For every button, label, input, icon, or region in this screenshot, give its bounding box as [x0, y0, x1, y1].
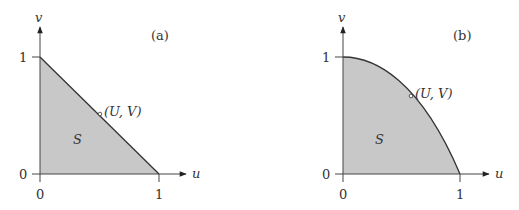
point-label-b: (U, V) [415, 86, 453, 101]
region-s-b [343, 57, 460, 174]
panel-tag-b: (b) [453, 28, 471, 43]
x-axis-label-a: u [192, 166, 200, 181]
point-label-a: (U, V) [104, 104, 142, 119]
diagram-canvas: v u 1 0 0 1 (a) (U, V) S v u 1 0 0 1 (b)… [0, 0, 519, 210]
y-tick-label-1-a: 1 [19, 50, 27, 65]
y-tick-label-0-a: 0 [19, 167, 27, 182]
y-tick-label-1-b: 1 [322, 50, 330, 65]
panel-tag-a: (a) [151, 28, 169, 43]
x-axis-label-b: u [495, 166, 503, 181]
point-uv-a [98, 112, 102, 116]
point-uv-b [409, 94, 413, 98]
region-label-a: S [73, 132, 82, 147]
region-label-b: S [375, 132, 384, 147]
panel-a: v u 1 0 0 1 (a) (U, V) S [19, 10, 200, 202]
x-tick-label-1-a: 1 [155, 187, 163, 202]
y-tick-label-0-b: 0 [322, 167, 330, 182]
panel-b: v u 1 0 0 1 (b) (U, V) S [322, 10, 503, 202]
y-axis-label-a: v [35, 10, 43, 25]
y-axis-label-b: v [338, 10, 346, 25]
x-tick-label-1-b: 1 [456, 187, 464, 202]
x-tick-label-0-a: 0 [36, 187, 44, 202]
x-tick-label-0-b: 0 [339, 187, 347, 202]
